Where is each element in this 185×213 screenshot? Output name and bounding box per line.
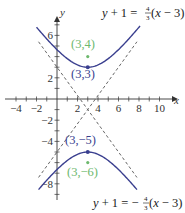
x-tick-label: 4 [95, 102, 101, 114]
svg-text:3: 3 [146, 14, 150, 22]
y-tick-label: −2 [41, 114, 53, 126]
svg-text:y + 1 = −: y + 1 = − [91, 196, 138, 210]
asymptote-equation-top: y + 1 = 4 3 (x − 3) [100, 5, 184, 22]
svg-text:4: 4 [146, 5, 150, 13]
svg-text:3: 3 [144, 204, 148, 212]
focus-top-label: (3,4) [71, 37, 95, 51]
focus-point [86, 55, 89, 58]
svg-text:4: 4 [144, 195, 148, 203]
svg-text:(x − 3): (x − 3) [149, 196, 182, 210]
x-tick-label: 8 [136, 102, 142, 114]
y-tick-label: −4 [41, 135, 53, 147]
y-tick-label: 2 [48, 72, 54, 84]
focus-point [86, 161, 89, 164]
x-tick-label: 6 [116, 102, 122, 114]
hyperbola-chart: −4−224681062−2−4−8 y x (3,4) (3,3) (3,−5… [0, 0, 185, 213]
svg-text:(x − 3): (x − 3) [151, 6, 184, 20]
asymptotes [39, 42, 137, 178]
svg-text:y + 1 =: y + 1 = [100, 6, 137, 20]
vertex-bottom-label: (3,−5) [65, 133, 96, 147]
x-axis-label: x [173, 94, 179, 106]
x-tick-label: 2 [75, 102, 81, 114]
x-tick-label: −4 [10, 102, 22, 114]
y-axis-label: y [59, 6, 65, 18]
x-tick-label: 10 [154, 102, 166, 114]
focus-bottom-label: (3,−6) [67, 165, 98, 179]
vertex-top-label: (3,3) [71, 67, 95, 81]
y-tick-label: 6 [48, 29, 54, 41]
vertex-point [86, 150, 90, 154]
x-tick-label: −2 [31, 102, 43, 114]
asymptote-equation-bottom: y + 1 = − 4 3 (x − 3) [91, 195, 182, 212]
